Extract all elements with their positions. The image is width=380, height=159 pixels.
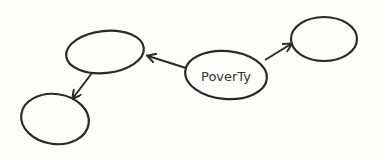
edge-poverty-to-top-left [148, 56, 186, 68]
node-label-poverty: PoverTy [201, 69, 251, 84]
node-bottom-left [18, 90, 92, 149]
node-top-right [291, 17, 357, 61]
node-poverty: PoverTy [183, 48, 269, 103]
edge-top-left-to-bottom-left [73, 73, 92, 98]
node-top-left [64, 27, 146, 77]
edge-poverty-to-top-right [265, 44, 291, 60]
concept-map: PoverTy [0, 0, 380, 159]
